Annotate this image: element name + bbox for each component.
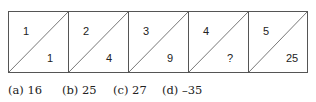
option-a[interactable]: (a) 16: [8, 83, 62, 97]
option-b[interactable]: (b) 25: [62, 83, 113, 97]
answer-options: (a) 16(b) 25(c) 27(d) –35: [8, 83, 202, 97]
box-5-bottom-number: 25: [286, 52, 298, 64]
box-5-top-number: 5: [263, 25, 269, 37]
box-2-bottom-number: 4: [106, 52, 112, 64]
number-box-row: 1 1 2 4 3 9 4 ? 5 25: [8, 11, 308, 73]
option-d[interactable]: (d) –35: [162, 83, 202, 97]
box-3-top-number: 3: [143, 25, 149, 37]
box-3-bottom-number: 9: [167, 52, 173, 64]
option-c[interactable]: (c) 27: [113, 83, 162, 97]
box-4-unknown-number: ?: [227, 52, 233, 64]
box-4-top-number: 4: [203, 25, 209, 37]
box-2-top-number: 2: [83, 25, 89, 37]
box-1-bottom-number: 1: [47, 52, 53, 64]
box-1-top-number: 1: [23, 25, 29, 37]
